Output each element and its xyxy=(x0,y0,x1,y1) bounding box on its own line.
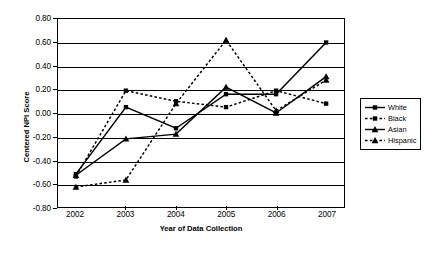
x-axis-tick-label: 2006 xyxy=(257,210,297,219)
legend-item-black[interactable]: Black xyxy=(364,113,416,124)
data-point-marker xyxy=(224,92,228,96)
plot-area xyxy=(57,18,345,208)
y-axis-tick-label: 0.00 xyxy=(7,109,51,118)
data-point-marker xyxy=(124,88,128,92)
x-axis-tick-label: 2005 xyxy=(206,210,246,219)
legend-swatch-square-icon xyxy=(364,103,386,112)
data-point-marker xyxy=(372,137,379,143)
x-axis-tick-label: 2003 xyxy=(105,210,145,219)
data-point-marker xyxy=(224,105,228,109)
x-axis-title: Year of Data Collection xyxy=(57,224,345,233)
legend-swatch-square-icon xyxy=(364,114,386,123)
x-axis-tick-label: 2007 xyxy=(307,210,347,219)
legend-label: White xyxy=(388,103,407,112)
y-axis-tick-mark xyxy=(53,208,57,209)
series-line xyxy=(76,77,326,176)
data-point-marker xyxy=(223,37,230,43)
legend-item-asian[interactable]: Asian xyxy=(364,124,416,135)
data-point-marker xyxy=(223,84,230,90)
data-point-marker xyxy=(324,40,328,44)
y-axis-tick-label: -0.80 xyxy=(7,204,51,213)
y-axis-tick-label: -0.40 xyxy=(7,156,51,165)
series-asian xyxy=(72,73,329,178)
legend-label: Black xyxy=(388,114,406,123)
y-axis-tick-label: 0.40 xyxy=(7,61,51,70)
y-axis-tick-label: 0.80 xyxy=(7,14,51,23)
data-point-marker xyxy=(324,101,328,105)
series-hispanic xyxy=(72,37,329,190)
data-point-marker xyxy=(373,116,377,120)
data-point-marker xyxy=(373,105,377,109)
legend-label: Asian xyxy=(388,125,407,134)
x-axis-tick-mark xyxy=(226,206,227,210)
y-axis-tick-label: 0.20 xyxy=(7,85,51,94)
chart-legend: WhiteBlackAsianHispanic xyxy=(360,98,421,150)
x-axis-tick-label: 2002 xyxy=(55,210,95,219)
legend-item-white[interactable]: White xyxy=(364,102,416,113)
y-axis-tick-labels: 0.800.600.400.200.00-0.20-0.40-0.60-0.80 xyxy=(0,0,57,253)
x-axis-tick-mark xyxy=(125,206,126,210)
legend-swatch-triangle-icon xyxy=(364,125,386,134)
x-axis-tick-mark xyxy=(277,206,278,210)
x-axis-tick-labels: 200220032004200520062007 xyxy=(57,210,345,224)
data-point-marker xyxy=(274,88,278,92)
y-axis-tick-label: -0.20 xyxy=(7,132,51,141)
legend-swatch-triangle-icon xyxy=(364,136,386,145)
y-axis-tick-label: 0.60 xyxy=(7,37,51,46)
x-axis-tick-label: 2004 xyxy=(156,210,196,219)
series-line xyxy=(76,43,326,175)
data-point-marker xyxy=(174,126,178,130)
chart-screenshot: Centered NPI Score 0.800.600.400.200.00-… xyxy=(0,0,430,253)
y-axis-tick-label: -0.60 xyxy=(7,180,51,189)
legend-item-hispanic[interactable]: Hispanic xyxy=(364,135,416,146)
x-axis-tick-mark xyxy=(176,206,177,210)
data-point-marker xyxy=(124,105,128,109)
series-white xyxy=(74,40,329,176)
legend-label: Hispanic xyxy=(388,136,416,145)
data-series-layer xyxy=(58,19,344,207)
